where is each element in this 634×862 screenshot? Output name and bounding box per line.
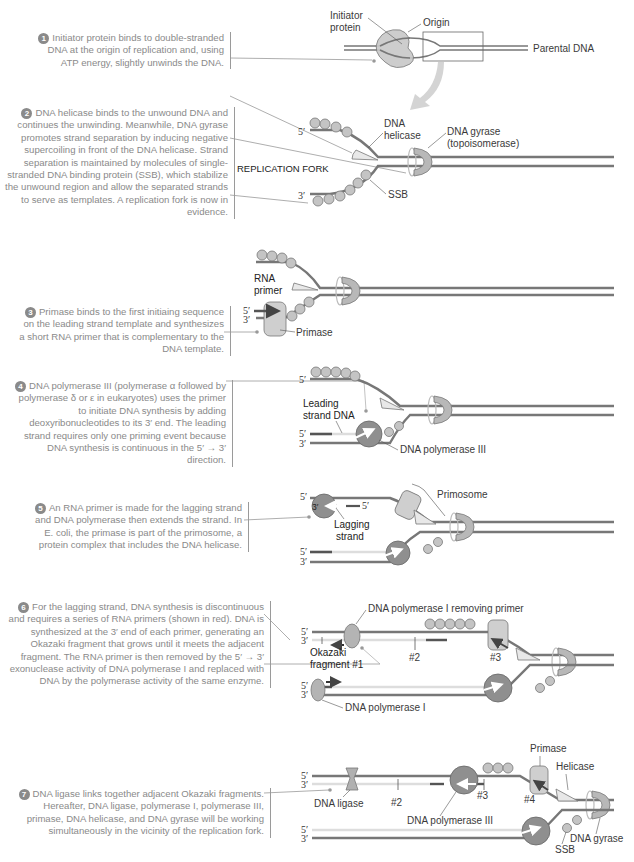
three-prime-label: 3′ xyxy=(301,833,308,844)
three-prime-label: 3′ xyxy=(301,635,308,646)
panel-6-okazaki-fragments: 5′ 3′ 5′ 3′ DNA polymerase I removing pr… xyxy=(264,603,614,713)
dna-gyrase-label: DNA gyrase xyxy=(570,833,624,844)
three-prime-label: 3′ xyxy=(300,556,307,567)
panel-5-primosome: 5′ 3′ Primosome 5′ 5′ 3′ Lagging strand xyxy=(244,484,614,567)
primase-shape xyxy=(530,766,548,794)
parental-dna-label: Parental DNA xyxy=(533,43,594,54)
panel-2-helicase-gyrase: 5′ 3′ DNA helicase DNA gyrase (topoisome… xyxy=(230,96,614,206)
dna-helicase-label-2: helicase xyxy=(384,130,421,141)
five-prime-label: 5′ xyxy=(298,126,305,137)
panel-1-initiation: Initiator protein Origin Parental DNA xyxy=(230,10,594,110)
dna-polymerase-iii-shape xyxy=(356,421,382,447)
primosome-label: Primosome xyxy=(437,489,488,500)
rna-primer-label: RNA xyxy=(254,273,275,284)
gyrase-shape xyxy=(414,148,432,176)
fragment-4-label: #4 xyxy=(524,794,536,805)
leading-strand-label-2: strand DNA xyxy=(303,410,355,421)
dna-gyrase-label-2: (topoisomerase) xyxy=(447,138,519,149)
dna-polymerase-iii-label: DNA polymerase III xyxy=(407,815,493,826)
ssb-label: SSB xyxy=(555,844,575,855)
five-prime-label: 5′ xyxy=(300,491,307,502)
rna-primer-label-2: primer xyxy=(254,285,283,296)
three-prime-label: 3′ xyxy=(298,190,305,201)
dna-ligase-shape xyxy=(346,768,358,790)
lagging-strand-label: Lagging xyxy=(334,519,370,530)
initiator-label: Initiator xyxy=(330,10,363,21)
dna-ligase-label: DNA ligase xyxy=(314,798,364,809)
dna-polymerase-i-shape xyxy=(344,624,360,648)
fragment-3-label: #3 xyxy=(477,790,489,801)
okazaki-fragment-label: Okazaki xyxy=(310,647,346,658)
fragment-2-label: #2 xyxy=(409,652,421,663)
three-prime-label: 3′ xyxy=(243,314,250,325)
three-prime-label: 3′ xyxy=(301,689,308,700)
replication-diagram: Initiator protein Origin Parental DNA 5′… xyxy=(0,0,634,862)
replication-fork-label: REPLICATION FORK xyxy=(237,163,329,174)
dna-polymerase-iii-shape xyxy=(450,766,478,794)
panel-7-ligase: 5′ 3′ 5′ 3′ DNA ligase #2 #3 #4 DNA poly… xyxy=(264,743,624,855)
leading-strand-label: Leading xyxy=(303,398,339,409)
dna-gyrase-label: DNA gyrase xyxy=(447,126,501,137)
lagging-strand-label-2: strand xyxy=(336,531,364,542)
pol-i-removing-primer-label: DNA polymerase I removing primer xyxy=(368,603,524,614)
dna-helicase-label: DNA xyxy=(384,118,405,129)
dna-polymerase-i-label: DNA polymerase I xyxy=(345,702,426,713)
three-prime-label: 3′ xyxy=(299,438,306,449)
panel-4-leading-strand: 5′ 3′ 5′ Leading strand DNA DNA polymera… xyxy=(226,367,614,455)
fragment-3-label: #3 xyxy=(490,652,502,663)
fragment-2-label: #2 xyxy=(391,797,403,808)
helicase-label: Helicase xyxy=(556,761,595,772)
ssb-label: SSB xyxy=(388,189,408,200)
three-prime-label: 3′ xyxy=(301,779,308,790)
primase-label: Primase xyxy=(530,743,567,754)
transition-arrow xyxy=(410,62,444,110)
okazaki-fragment-label-2: fragment #1 xyxy=(310,659,364,670)
origin-label: Origin xyxy=(423,17,450,28)
five-prime-label: 5′ xyxy=(299,374,306,385)
five-prime-label: 5′ xyxy=(362,500,369,511)
panel-3-primase: 5′ 3′ RNA primer Primase xyxy=(224,250,614,338)
dna-polymerase-iii-label: DNA polymerase III xyxy=(400,444,486,455)
initiator-label-2: protein xyxy=(330,22,361,33)
primase-label: Primase xyxy=(296,327,333,338)
primase-shape xyxy=(264,302,286,336)
three-prime-label: 3′ xyxy=(312,502,319,512)
initiator-protein-shape xyxy=(376,30,413,68)
